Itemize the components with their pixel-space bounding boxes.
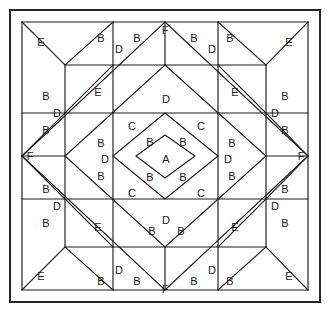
- patch-label-b: B: [146, 136, 153, 148]
- patch-label-b: B: [42, 90, 49, 102]
- patch-label-b: B: [190, 275, 197, 287]
- patch-label-a: A: [162, 153, 170, 165]
- patch-label-b: B: [148, 225, 155, 237]
- patch-label-b: B: [42, 217, 49, 229]
- patch-label-b: B: [133, 275, 140, 287]
- patch-label-d: D: [224, 153, 232, 165]
- patch-label-c: C: [128, 120, 136, 132]
- patch-label-c: C: [197, 187, 205, 199]
- patch-label-d: D: [271, 200, 279, 212]
- patch-label-b: B: [97, 32, 104, 44]
- patch-label-e: E: [231, 221, 238, 233]
- patch-label-c: C: [128, 187, 136, 199]
- patch-label-b: B: [133, 32, 140, 44]
- patch-label-f: F: [162, 283, 169, 295]
- patch-label-b: B: [281, 90, 288, 102]
- patch-label-b: B: [179, 136, 186, 148]
- patch-label-e: E: [231, 86, 238, 98]
- patch-label-b: B: [179, 171, 186, 183]
- patch-label-f: F: [298, 150, 305, 162]
- patch-label-b: B: [226, 32, 233, 44]
- patch-label-b: B: [228, 170, 235, 182]
- patch-label-d: D: [115, 264, 123, 276]
- quilt-pattern-canvas: EBDBFBDBEBDBEDEBDBCBBCBDADBFFBBBBCCBDBED…: [0, 0, 332, 320]
- patch-label-b: B: [97, 275, 104, 287]
- patch-label-d: D: [162, 214, 170, 226]
- patch-label-e: E: [37, 36, 44, 48]
- patch-label-b: B: [42, 183, 49, 195]
- patch-label-e: E: [37, 270, 44, 282]
- patch-label-b: B: [281, 183, 288, 195]
- patch-label-b: B: [146, 171, 153, 183]
- patch-label-e: E: [285, 36, 292, 48]
- patch-label-f: F: [27, 150, 34, 162]
- patch-label-b: B: [190, 32, 197, 44]
- patch-label-e: E: [94, 221, 101, 233]
- patch-label-d: D: [208, 43, 216, 55]
- patch-label-d: D: [53, 200, 61, 212]
- patch-label-d: D: [101, 153, 109, 165]
- patch-label-b: B: [228, 137, 235, 149]
- patch-label-b: B: [281, 217, 288, 229]
- patch-label-b: B: [42, 124, 49, 136]
- patch-label-e: E: [285, 270, 292, 282]
- patch-label-d: D: [162, 93, 170, 105]
- patch-label-c: C: [197, 120, 205, 132]
- patch-label-d: D: [271, 107, 279, 119]
- patch-label-b: B: [97, 137, 104, 149]
- patch-label-b: B: [281, 124, 288, 136]
- patch-label-b: B: [97, 170, 104, 182]
- patch-label-b: B: [226, 275, 233, 287]
- patch-label-b: B: [177, 225, 184, 237]
- quilt-block-diagram: EBDBFBDBEBDBEDEBDBCBBCBDADBFFBBBBCCBDBED…: [0, 0, 332, 320]
- patch-label-d: D: [115, 43, 123, 55]
- patch-label-f: F: [162, 24, 169, 36]
- patch-label-e: E: [94, 86, 101, 98]
- patch-label-d: D: [208, 264, 216, 276]
- patch-label-d: D: [53, 107, 61, 119]
